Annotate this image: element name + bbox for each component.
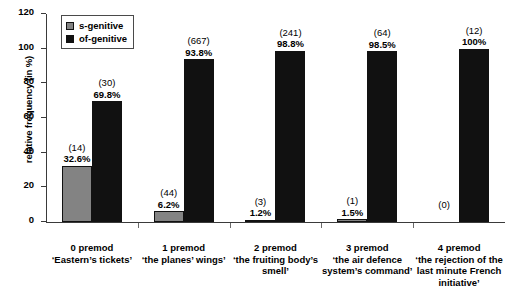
y-axis-tick-label: 20 [23, 179, 34, 190]
category-name: 4 premod [413, 242, 505, 254]
bar-percent-label: 6.2% [158, 199, 180, 211]
x-axis-separator-tick [321, 223, 322, 228]
category-example: ‘the fruiting body’s smell’ [230, 254, 322, 277]
y-axis-tick-label: 60 [23, 110, 34, 121]
y-axis-tick-label: 120 [18, 6, 34, 17]
bar-value-label: (64)98.5% [369, 27, 396, 50]
bar-count-label: (241) [277, 27, 304, 39]
x-axis-category-label: 4 premod‘the rejection of the last minut… [413, 242, 505, 288]
bar-s-genitive: (14)32.6% [62, 166, 92, 223]
category-example: ‘Eastern’s tickets’ [46, 254, 138, 266]
bar-s-genitive: (3)1.2% [245, 220, 275, 222]
bar-of-genitive: (667)93.8% [184, 59, 214, 222]
x-axis-separator-tick [138, 223, 139, 228]
x-axis-category-label: 1 premod‘the planes’ wings’ [138, 242, 230, 265]
legend-item: of-genitive [66, 32, 127, 45]
bar-group: (3)1.2%(241)98.8% [230, 14, 322, 222]
legend-label: of-genitive [79, 33, 127, 44]
legend-item: s-genitive [66, 19, 127, 32]
bar-value-label: (1)1.5% [341, 195, 363, 218]
bar-percent-label: 100% [462, 36, 486, 48]
bar-value-label: (44)6.2% [158, 187, 180, 210]
x-axis-separator-tick [230, 223, 231, 228]
bar-of-genitive: (12)100% [459, 49, 489, 222]
bar-of-genitive: (64)98.5% [367, 51, 397, 222]
bar-count-label: (14) [63, 142, 90, 154]
category-name: 1 premod [138, 242, 230, 254]
category-name: 0 premod [46, 242, 138, 254]
x-axis-separator-tick [413, 223, 414, 228]
x-axis-category-label: 3 premod‘the air defence system’s comman… [321, 242, 413, 277]
legend-swatch-icon [66, 35, 74, 43]
bar-count-label: (64) [369, 27, 396, 39]
bar-s-genitive-empty: (0) [429, 221, 459, 222]
bar-value-label: (14)32.6% [63, 142, 90, 165]
category-name: 2 premod [230, 242, 322, 254]
bar-value-label: (241)98.8% [277, 27, 304, 50]
bar-value-label: (667)93.8% [185, 35, 212, 58]
legend-swatch-icon [66, 22, 74, 30]
y-axis-tick-label: 80 [23, 75, 34, 86]
chart-legend: s-genitiveof-genitive [61, 15, 134, 49]
x-axis-category-label: 0 premod‘Eastern’s tickets’ [46, 242, 138, 265]
bar-percent-label: 98.8% [277, 38, 304, 50]
bar-percent-label: 69.8% [93, 89, 120, 101]
bar-group: (0)(12)100% [413, 14, 505, 222]
category-example: ‘the planes’ wings’ [138, 254, 230, 266]
bar-s-genitive: (1)1.5% [337, 219, 367, 222]
bar-percent-label: 93.8% [185, 47, 212, 59]
x-axis-category-label: 2 premod‘the fruiting body’s smell’ [230, 242, 322, 277]
bar-percent-label: 1.2% [250, 207, 272, 219]
bar-of-genitive: (30)69.8% [92, 101, 122, 222]
bar-s-genitive: (44)6.2% [154, 211, 184, 222]
legend-label: s-genitive [79, 20, 123, 31]
bar-count-label: (44) [158, 187, 180, 199]
category-example: ‘the rejection of the last minute French… [413, 254, 505, 289]
y-axis-tick-label: 40 [23, 145, 34, 156]
bar-count-label: (667) [185, 35, 212, 47]
y-axis-tick-label: 100 [18, 41, 34, 52]
category-example: ‘the air defence system’s command’ [321, 254, 413, 277]
bar-value-label: (30)69.8% [93, 77, 120, 100]
y-axis-tick-label: 0 [29, 214, 34, 225]
bar-value-label: (12)100% [462, 25, 486, 48]
bar-count-label: (30) [93, 77, 120, 89]
bar-of-genitive: (241)98.8% [275, 51, 305, 222]
bar-chart: relative frequency (in %) 02040608010012… [0, 0, 509, 290]
bar-percent-label: 1.5% [341, 207, 363, 219]
bar-percent-label: 32.6% [63, 153, 90, 165]
bar-group: (44)6.2%(667)93.8% [138, 14, 230, 222]
bar-count-label: (12) [462, 25, 486, 37]
bar-percent-label: 98.5% [369, 39, 396, 51]
bar-value-label: (0) [438, 199, 450, 211]
category-name: 3 premod [321, 242, 413, 254]
bar-count-label: (1) [341, 195, 363, 207]
x-axis-line [46, 222, 505, 223]
bar-group: (1)1.5%(64)98.5% [321, 14, 413, 222]
bar-count-label: (3) [250, 196, 272, 208]
bar-count-label: (0) [438, 199, 450, 211]
bar-value-label: (3)1.2% [250, 196, 272, 219]
